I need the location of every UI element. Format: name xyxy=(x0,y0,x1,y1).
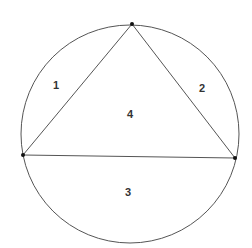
inscribed-triangle-diagram: 1 2 3 4 xyxy=(0,0,252,248)
region-label-2: 2 xyxy=(199,82,205,94)
vertex-right xyxy=(233,156,237,160)
region-label-3: 3 xyxy=(125,186,131,198)
region-label-4: 4 xyxy=(127,108,134,120)
region-label-1: 1 xyxy=(53,79,59,91)
vertex-left xyxy=(21,153,25,157)
vertex-top xyxy=(130,22,134,26)
circle xyxy=(21,25,239,243)
